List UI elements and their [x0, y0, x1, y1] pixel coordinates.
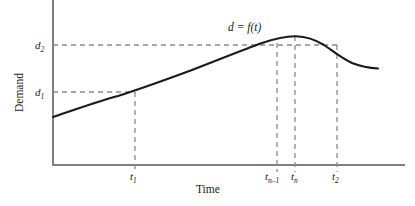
chart-canvas — [0, 0, 415, 206]
y-tick-d2-sub: 2 — [41, 45, 45, 54]
y-tick-d2-base: d — [35, 39, 41, 51]
demand-curve — [53, 36, 378, 117]
y-tick-label-d2: d2 — [35, 40, 44, 51]
x-tick-label-tn-minus-1: tn–1 — [265, 171, 279, 182]
y-tick-d1-base: d — [35, 86, 41, 98]
x-tick-label-tn: tn — [291, 171, 298, 182]
y-tick-label-d1: d1 — [35, 87, 44, 98]
x-tick-label-t2: t2 — [332, 171, 339, 182]
x-tick-tn1-sub: n–1 — [268, 176, 279, 185]
x-tick-tn-sub: n — [294, 176, 298, 185]
x-tick-t2-sub: 2 — [335, 176, 339, 185]
y-axis-title: Demand — [14, 73, 26, 112]
x-tick-label-t1: t1 — [130, 171, 137, 182]
x-axis-title: Time — [196, 184, 220, 196]
curve-equation-label: d = f(t) — [228, 22, 261, 34]
demand-curve-figure: Demand Time d2 d1 t1 tn–1 tn t2 d = f(t) — [0, 0, 415, 206]
x-tick-t1-sub: 1 — [133, 176, 137, 185]
y-tick-d1-sub: 1 — [41, 92, 45, 101]
